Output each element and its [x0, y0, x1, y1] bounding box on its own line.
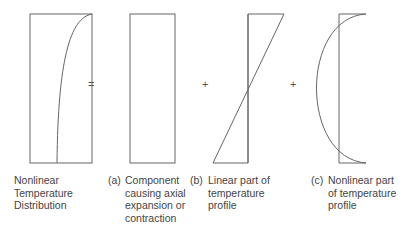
caption-nonlinear-distribution: Nonlinear Temperature Distribution — [14, 174, 73, 212]
caption-b: (b) Linear part of temperature profile — [190, 174, 270, 212]
axial-component-shape — [130, 14, 175, 163]
nonlinear-part-shape — [317, 14, 367, 163]
caption-tag: (b) — [190, 174, 203, 187]
caption-tag: (c) — [311, 174, 323, 187]
caption-tag: (a) — [108, 174, 121, 187]
caption-c: (c) Nonlinear part of temperature profil… — [311, 174, 396, 212]
equals-operator: = — [88, 78, 94, 90]
nonlinear-distribution-shape — [30, 14, 92, 163]
plus-operator-2: + — [290, 78, 296, 90]
linear-part-shape — [213, 14, 284, 163]
plus-operator-1: + — [202, 78, 208, 90]
caption-a: (a) Component causing axial expansion or… — [108, 174, 186, 224]
